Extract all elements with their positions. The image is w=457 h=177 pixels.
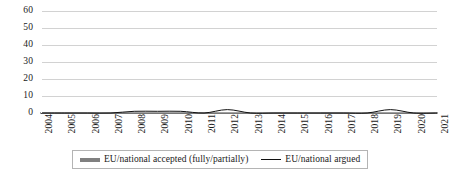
y-axis-tick-label: 40	[23, 40, 33, 50]
x-axis-tick-label: 2005	[68, 114, 78, 133]
x-axis-tick-label: 2009	[161, 114, 171, 133]
legend-entry-accepted[interactable]: EU/national accepted (fully/partially)	[80, 155, 248, 165]
x-axis-tick-label: 2019	[394, 114, 404, 133]
x-axis-tick-label: 2015	[301, 114, 311, 133]
x-axis-tick-label: 2010	[185, 114, 195, 133]
y-axis-tick-label: 60	[23, 6, 33, 16]
x-axis-tick-label: 2013	[255, 114, 265, 133]
y-axis-tick-label: 50	[23, 23, 33, 33]
x-axis-tick-labels: 2004200520062007200820092010201120122013…	[41, 113, 437, 145]
y-axis-tick-labels: 0102030405060	[0, 11, 37, 113]
series-lines	[41, 11, 437, 113]
legend-entry-argued[interactable]: EU/national argued	[261, 155, 360, 165]
x-axis-tick-label: 2020	[418, 114, 428, 133]
x-axis-tick-label: 2012	[231, 114, 241, 133]
y-axis-line	[41, 11, 42, 113]
y-axis-tick-label: 20	[23, 74, 33, 84]
x-axis-tick-label: 2006	[92, 114, 102, 133]
x-axis-tick-label: 2016	[325, 114, 335, 133]
thin-black-line-swatch-icon	[261, 159, 281, 160]
x-axis-tick-label: 2018	[371, 114, 381, 133]
line-chart-figure: 0102030405060 20042005200620072008200920…	[0, 0, 457, 177]
legend-label-argued: EU/national argued	[285, 155, 360, 165]
plot-area	[41, 11, 437, 113]
x-axis-tick-label: 2011	[208, 114, 218, 133]
chart-legend: EU/national accepted (fully/partially) E…	[72, 150, 368, 169]
y-axis-tick-label: 10	[23, 91, 33, 101]
x-axis-tick-label: 2014	[278, 114, 288, 133]
y-axis-tick-label: 0	[28, 108, 33, 118]
thick-gray-line-swatch-icon	[80, 158, 100, 162]
y-axis-tick-label: 30	[23, 57, 33, 67]
x-axis-tick-label: 2007	[115, 114, 125, 133]
x-axis-tick-label: 2004	[45, 114, 55, 133]
x-axis-tick-label: 2008	[138, 114, 148, 133]
x-axis-tick-label: 2017	[348, 114, 358, 133]
legend-label-accepted: EU/national accepted (fully/partially)	[104, 155, 248, 165]
x-axis-tick-label: 2021	[441, 114, 451, 133]
